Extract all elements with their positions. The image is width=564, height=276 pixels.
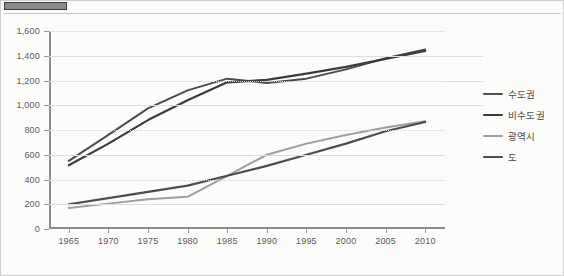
- gridline: [49, 105, 445, 106]
- gridline: [49, 31, 445, 32]
- gridline: [49, 180, 445, 181]
- x-axis-label: 1975: [138, 236, 159, 246]
- plot-area: 02004006008001,0001,2001,4001,6001965197…: [49, 31, 445, 229]
- x-axis-tick: [346, 229, 347, 233]
- x-axis-label: 1970: [98, 236, 119, 246]
- gridline-tail: [445, 105, 483, 106]
- y-axis-tick: [44, 81, 49, 82]
- legend-label: 수도권: [508, 87, 536, 101]
- legend-item[interactable]: 도: [483, 150, 545, 164]
- y-axis-tick: [44, 31, 49, 32]
- header-divider: [3, 13, 561, 14]
- y-axis-label: 1,200: [16, 76, 40, 86]
- y-axis-label: 800: [24, 125, 40, 135]
- x-axis-label: 2000: [336, 236, 357, 246]
- legend-label: 도: [508, 150, 517, 164]
- x-axis-tick: [148, 229, 149, 233]
- legend-item[interactable]: 수도권: [483, 87, 545, 101]
- x-axis-label: 1965: [58, 236, 79, 246]
- y-axis-label: 1,400: [16, 51, 40, 61]
- y-axis-tick: [44, 180, 49, 181]
- y-axis-label: 1,600: [16, 26, 40, 36]
- y-axis-label: 1,000: [16, 100, 40, 110]
- series-line: [69, 51, 425, 165]
- x-axis-tick: [69, 229, 70, 233]
- legend-label: 광역시: [508, 129, 536, 143]
- gridline: [49, 81, 445, 82]
- legend-swatch: [483, 93, 503, 96]
- gridline: [49, 56, 445, 57]
- y-axis-tick: [44, 56, 49, 57]
- gridline-tail: [445, 81, 483, 82]
- x-axis-label: 1990: [256, 236, 277, 246]
- legend-item[interactable]: 비수도권: [483, 108, 545, 122]
- legend-item[interactable]: 광역시: [483, 129, 545, 143]
- x-axis-tick: [425, 229, 426, 233]
- x-axis-tick: [108, 229, 109, 233]
- line-chart: 02004006008001,0001,2001,4001,6001965197…: [1, 15, 564, 275]
- y-axis-tick: [44, 204, 49, 205]
- legend-label: 비수도권: [508, 108, 545, 122]
- x-axis-tick: [386, 229, 387, 233]
- gridline-tail: [445, 56, 483, 57]
- y-axis-label: 400: [24, 175, 40, 185]
- gridline: [49, 204, 445, 205]
- y-axis-tick: [44, 105, 49, 106]
- legend-swatch: [483, 135, 503, 138]
- x-axis-tick: [267, 229, 268, 233]
- x-axis-label: 2010: [415, 236, 436, 246]
- y-axis-label: 200: [24, 199, 40, 209]
- legend-swatch: [483, 156, 503, 159]
- x-axis-label: 2005: [375, 236, 396, 246]
- x-axis-tick: [188, 229, 189, 233]
- y-axis-label: 0: [35, 224, 40, 234]
- y-axis-tick: [44, 155, 49, 156]
- y-axis-label: 600: [24, 150, 40, 160]
- x-axis-tick: [227, 229, 228, 233]
- x-axis-label: 1980: [177, 236, 198, 246]
- legend: 수도권비수도권광역시도: [483, 87, 545, 164]
- x-axis-label: 1985: [217, 236, 238, 246]
- scanned-page: 02004006008001,0001,2001,4001,6001965197…: [0, 0, 564, 276]
- x-axis-label: 1995: [296, 236, 317, 246]
- header-tab-fragment: [4, 2, 67, 10]
- y-axis-tick: [44, 130, 49, 131]
- x-axis-tick: [306, 229, 307, 233]
- y-axis-tick: [44, 229, 49, 230]
- gridline: [49, 155, 445, 156]
- gridline: [49, 130, 445, 131]
- legend-swatch: [483, 114, 503, 117]
